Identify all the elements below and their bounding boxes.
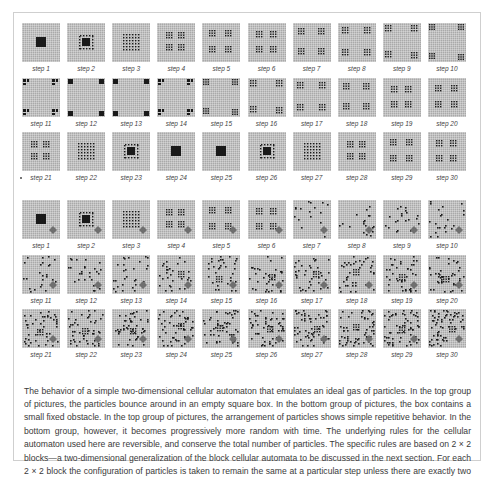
obstacle-diamond: [455, 226, 463, 234]
obstacle-diamond: [365, 281, 373, 289]
step-panel: step 25: [202, 309, 242, 361]
obstacle-diamond: [275, 335, 283, 343]
automaton-grid-image: [428, 23, 466, 62]
automaton-grid-image: [67, 78, 105, 117]
step-label: step 25: [196, 174, 246, 181]
step-panel: step 24: [157, 132, 197, 184]
step-panel: step 24: [157, 309, 197, 361]
step-label: step 1: [16, 242, 66, 249]
step-label: step 27: [287, 174, 337, 181]
automaton-grid-image: [157, 255, 195, 294]
step-label: step 19: [377, 120, 427, 127]
step-label: step 12: [61, 120, 111, 127]
automaton-grid-image: [67, 255, 105, 294]
step-panel: step 11: [22, 255, 62, 307]
automaton-grid-image: [67, 309, 105, 348]
automaton-grid-image: [202, 23, 240, 62]
step-panel: step 27: [293, 309, 333, 361]
figure-frame: step 1step 2step 3step 4step 5step 6step…: [13, 12, 481, 461]
step-label: step 23: [106, 174, 156, 181]
step-label: step 22: [61, 174, 111, 181]
automaton-grid-image: [383, 132, 421, 171]
obstacle-diamond: [139, 335, 147, 343]
step-panel: step 14: [157, 78, 197, 130]
automaton-grid-image: [383, 23, 421, 62]
step-label: step 5: [196, 242, 246, 249]
automaton-grid-image: [67, 200, 105, 239]
step-panel: step 4: [157, 200, 197, 252]
step-panel: step 9: [383, 23, 423, 75]
step-panel: step 19: [383, 255, 423, 307]
obstacle-diamond: [455, 281, 463, 289]
step-label: step 15: [196, 120, 246, 127]
automaton-grid-image: [428, 78, 466, 117]
step-label: step 13: [106, 120, 156, 127]
obstacle-diamond: [139, 226, 147, 234]
tile-row: step 11step 12step 13step 14step 15step …: [22, 78, 472, 132]
automaton-grid-image: [202, 200, 240, 239]
automaton-grid-image: [202, 132, 240, 171]
automaton-grid-image: [293, 309, 331, 348]
step-panel: step 26: [248, 309, 288, 361]
automaton-grid-image: [338, 23, 376, 62]
step-label: step 20: [422, 297, 472, 304]
tile-row: step 11step 12step 13step 14step 15step …: [22, 255, 472, 309]
step-panel: step 2: [67, 23, 107, 75]
step-panel: step 7: [293, 200, 333, 252]
step-panel: step 8: [338, 200, 378, 252]
obstacle-diamond: [94, 335, 102, 343]
step-label: step 11: [16, 297, 66, 304]
tile-row: step 21step 22step 23step 24step 25step …: [22, 132, 472, 186]
step-panel: step 17: [293, 255, 333, 307]
obstacle-diamond: [410, 226, 418, 234]
step-label: step 24: [151, 174, 201, 181]
automaton-grid-image: [338, 132, 376, 171]
step-label: step 15: [196, 297, 246, 304]
step-label: step 17: [287, 120, 337, 127]
automaton-grid-image: [338, 78, 376, 117]
step-label: step 11: [16, 120, 66, 127]
obstacle-diamond: [365, 226, 373, 234]
automaton-grid-image: [428, 309, 466, 348]
step-panel: step 15: [202, 78, 242, 130]
obstacle-diamond: [275, 281, 283, 289]
step-panel: step 16: [248, 78, 288, 130]
step-label: step 26: [242, 174, 292, 181]
step-label: step 22: [61, 351, 111, 358]
step-label: step 29: [377, 351, 427, 358]
step-label: step 27: [287, 351, 337, 358]
step-panel: step 10: [428, 23, 468, 75]
step-panel: step 22: [67, 132, 107, 184]
step-label: step 16: [242, 120, 292, 127]
step-label: step 4: [151, 242, 201, 249]
automaton-grid-image: [428, 200, 466, 239]
obstacle-diamond: [229, 335, 237, 343]
automaton-grid-image: [22, 255, 60, 294]
step-label: step 12: [61, 297, 111, 304]
automaton-grid-image: [157, 78, 195, 117]
step-panel: step 16: [248, 255, 288, 307]
step-panel: step 12: [67, 78, 107, 130]
step-panel: step 21: [22, 132, 62, 184]
automaton-grid-image: [157, 200, 195, 239]
obstacle-diamond: [49, 226, 57, 234]
step-label: step 10: [422, 65, 472, 72]
step-label: step 17: [287, 297, 337, 304]
step-label: step 8: [332, 242, 382, 249]
automaton-grid-image: [202, 309, 240, 348]
step-panel: step 20: [428, 78, 468, 130]
step-panel: step 23: [112, 132, 152, 184]
step-label: step 6: [242, 242, 292, 249]
step-panel: step 28: [338, 132, 378, 184]
obstacle-diamond: [184, 281, 192, 289]
automaton-grid-image: [112, 255, 150, 294]
automaton-grid-image: [22, 309, 60, 348]
step-panel: step 26: [248, 132, 288, 184]
step-panel: step 29: [383, 309, 423, 361]
automaton-grid-image: [112, 78, 150, 117]
step-panel: step 15: [202, 255, 242, 307]
step-panel: step 19: [383, 78, 423, 130]
step-label: step 8: [332, 65, 382, 72]
step-label: step 24: [151, 351, 201, 358]
step-panel: step 22: [67, 309, 107, 361]
